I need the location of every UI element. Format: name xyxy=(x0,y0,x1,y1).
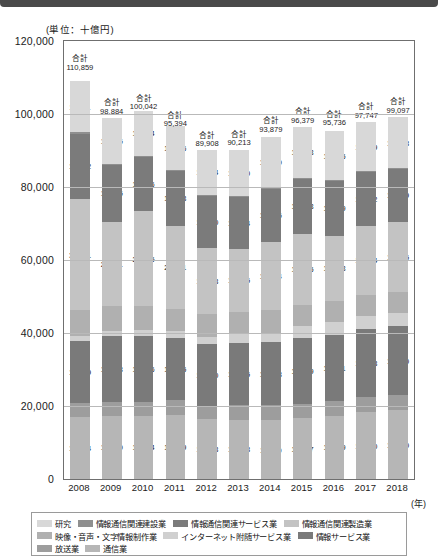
bar-segment xyxy=(388,168,408,222)
x-axis-tick-label: 2014 xyxy=(259,482,281,493)
total-value-label: 93,879 xyxy=(259,126,282,135)
bar-segment xyxy=(197,195,217,196)
bar-total: 合計93,879 xyxy=(259,117,282,134)
bar-segment xyxy=(293,178,313,179)
x-axis-tick-label: 2016 xyxy=(323,482,345,493)
legend-item[interactable]: 情報サービス業 xyxy=(298,530,371,542)
x-axis-tick-label: 2015 xyxy=(291,482,313,493)
bar-2010[interactable] xyxy=(134,114,154,479)
legend-swatch-icon xyxy=(37,545,52,552)
bar-segment xyxy=(70,81,90,132)
bar-segment xyxy=(325,181,345,236)
y-axis-labels: 120,000100,00080,00060,00040,00020,0000 xyxy=(0,40,60,480)
window-top-strip xyxy=(0,0,438,7)
bar-segment xyxy=(102,222,122,306)
legend-item[interactable]: 情報通信関連製造業 xyxy=(284,517,372,529)
bar-segment xyxy=(102,165,122,221)
bar-2009[interactable] xyxy=(102,118,122,479)
bar-segment xyxy=(102,336,122,401)
legend-label: インターネット附随サービス業 xyxy=(181,530,290,542)
legend-item[interactable]: 研究 xyxy=(37,517,71,529)
legend-item[interactable]: インターネット附随サービス業 xyxy=(163,530,290,542)
bar-2015[interactable] xyxy=(293,127,313,479)
legend-swatch-icon xyxy=(37,532,52,539)
bar-segment xyxy=(166,171,186,226)
bar-2011[interactable] xyxy=(166,131,186,479)
bar-segment xyxy=(229,343,249,406)
bar-segment xyxy=(102,306,122,331)
legend-item[interactable]: 通信業 xyxy=(85,542,126,554)
legend-label: 情報通信関連製造業 xyxy=(302,517,372,529)
grid-line xyxy=(64,333,414,334)
bar-2013[interactable] xyxy=(229,150,249,479)
bar-segment xyxy=(197,195,217,248)
x-axis-tick-label: 2009 xyxy=(100,482,122,493)
bar-segment xyxy=(166,415,186,479)
legend-label: 放送業 xyxy=(55,542,78,554)
legend-swatch-icon xyxy=(173,520,188,527)
bar-2016[interactable] xyxy=(325,130,345,479)
legend-item[interactable]: 情報通信関連サービス業 xyxy=(173,517,277,529)
bar-segment xyxy=(102,416,122,479)
bar-segment xyxy=(388,168,408,169)
bar-segment xyxy=(134,156,154,157)
bar-segment xyxy=(134,156,154,211)
bar-segment xyxy=(166,309,186,332)
bar-segment xyxy=(134,111,154,155)
unit-note: (単位：十億円) xyxy=(46,22,114,36)
y-axis-tick-label: 60,000 xyxy=(21,254,54,266)
bar-segment xyxy=(229,312,249,334)
total-value-label: 89,908 xyxy=(196,140,219,149)
x-axis-tick-label: 2013 xyxy=(227,482,249,493)
bar-segment xyxy=(261,188,281,242)
total-value-label: 110,859 xyxy=(66,64,93,73)
legend-item[interactable]: 情報通信関連建設業 xyxy=(78,517,166,529)
bar-segment xyxy=(134,306,154,330)
bar-segment xyxy=(356,122,376,171)
legend-label: 情報サービス業 xyxy=(316,530,371,542)
bar-segment xyxy=(197,344,217,406)
bar-segment xyxy=(293,127,313,179)
bar-2012[interactable] xyxy=(197,151,217,479)
bar-2018[interactable] xyxy=(388,117,408,479)
grid-line xyxy=(64,260,414,261)
bar-segment xyxy=(102,402,122,416)
bar-segment xyxy=(229,249,249,312)
bar-segment xyxy=(388,222,408,292)
y-axis-tick-label: 80,000 xyxy=(21,181,54,193)
chart-plot-area: 16,9343,87716,8891,4077,15230,39117,9823… xyxy=(63,40,415,480)
y-axis-tick-label: 0 xyxy=(48,473,54,485)
bar-segment xyxy=(70,336,90,341)
bar-segment xyxy=(70,134,90,200)
bar-segment xyxy=(261,405,281,420)
bar-2008[interactable] xyxy=(70,74,90,479)
grid-line xyxy=(64,114,414,115)
bar-segment xyxy=(134,211,154,306)
bar-segment xyxy=(388,313,408,327)
bar-segment xyxy=(102,164,122,165)
bar-segment xyxy=(197,248,217,314)
legend-item[interactable]: 映像・音声・文字情報制作業 xyxy=(37,530,156,542)
y-axis-tick-label: 40,000 xyxy=(21,327,54,339)
bar-segment xyxy=(356,172,376,226)
bar-segment xyxy=(388,117,408,167)
bar-segment xyxy=(261,333,281,343)
bar-segment xyxy=(229,150,249,196)
bar-2017[interactable] xyxy=(356,122,376,479)
bar-segment xyxy=(356,329,376,397)
bar-segment xyxy=(166,126,186,170)
grid-line xyxy=(64,187,414,188)
bar-segment xyxy=(229,420,249,479)
grid-line xyxy=(64,406,414,407)
bar-segment xyxy=(356,171,376,172)
bar-segment xyxy=(166,226,186,309)
bar-segment xyxy=(325,131,345,180)
bar-segment xyxy=(229,334,249,342)
bar-segment xyxy=(229,196,249,248)
bar-segment xyxy=(134,416,154,479)
x-axis-tick-label: 2011 xyxy=(164,482,185,493)
legend-label: 情報通信関連建設業 xyxy=(96,517,166,529)
bar-segment xyxy=(70,132,90,133)
bar-total: 合計99,097 xyxy=(386,98,409,115)
legend-item[interactable]: 放送業 xyxy=(37,542,78,554)
